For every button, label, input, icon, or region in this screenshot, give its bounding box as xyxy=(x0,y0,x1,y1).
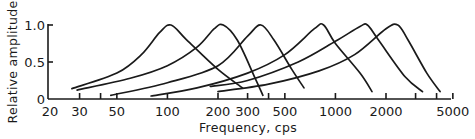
resonance-curves xyxy=(72,24,440,96)
x-axis: 203050100200300500100020005000 xyxy=(42,93,470,119)
x-tick-label: 50 xyxy=(109,104,126,119)
x-axis-tick-labels: 203050100200300500100020005000 xyxy=(42,104,470,119)
x-tick-label: 30 xyxy=(71,104,88,119)
x-tick-label: 1000 xyxy=(319,104,352,119)
x-tick-label: 200 xyxy=(206,104,231,119)
y-tick-label: 1.0 xyxy=(24,18,45,33)
x-axis-ticks xyxy=(80,93,453,99)
x-tick-label: 500 xyxy=(272,104,297,119)
y-axis xyxy=(48,24,53,99)
x-axis-title: Frequency, cps xyxy=(199,120,297,135)
curve-1 xyxy=(72,25,243,89)
frequency-response-chart: 203050100200300500100020005000 00.51.0 F… xyxy=(0,0,475,139)
y-axis-tick-labels: 00.51.0 xyxy=(24,18,45,107)
x-tick-label: 2000 xyxy=(369,104,402,119)
curve-5 xyxy=(210,24,422,92)
y-axis-title: Relative amplitude xyxy=(5,1,20,124)
x-tick-label: 300 xyxy=(235,104,260,119)
x-tick-label: 5000 xyxy=(436,104,469,119)
y-tick-label: 0 xyxy=(37,92,45,107)
x-tick-label: 100 xyxy=(155,104,180,119)
y-tick-label: 0.5 xyxy=(24,55,45,70)
curve-2 xyxy=(77,24,263,95)
